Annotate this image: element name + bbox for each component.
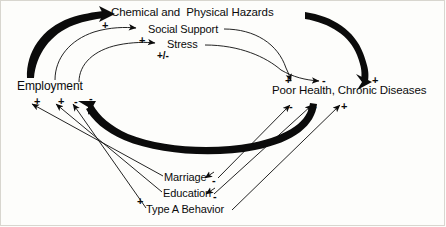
line-typea-to-employment: [73, 104, 146, 208]
sign-poorhealth-to-employment: -: [89, 93, 93, 104]
arc-hazards-to-poorhealth: [305, 12, 372, 90]
node-stress: Stress: [167, 39, 198, 50]
node-chemical-physical-hazards: Chemical and Physical Hazards: [111, 7, 274, 19]
sign-marriage-to-poorhealth: -: [289, 101, 293, 112]
sign-typea-left: +: [137, 196, 143, 207]
sign-hazards-from-employment: +: [102, 20, 108, 31]
sign-marriage-to-employment: +: [34, 96, 40, 107]
sign-stress-to-poorhealth: -: [322, 75, 326, 86]
sign-hazards-to-poorhealth: +: [372, 75, 378, 86]
node-education: Education: [163, 188, 211, 199]
node-social-support: Social Support: [148, 24, 218, 35]
sign-typea-to-employment: -: [74, 96, 78, 107]
node-poor-health-chronic-diseases: Poor Health, Chronic Diseases: [272, 85, 426, 97]
line-education-to-employment: [56, 104, 162, 192]
arc-poorhealth-to-employment: [78, 101, 317, 154]
sign-stress-from-employment: +/-: [157, 51, 169, 61]
curve-stress-to-poorhealth: [205, 45, 319, 81]
sign-marriage-self: -: [212, 175, 216, 186]
line-typea-to-poorhealth: [232, 105, 340, 210]
diagram-canvas-container: Chemical and Physical Hazards Social Sup…: [0, 0, 446, 227]
sign-social-to-poorhealth: +: [285, 75, 291, 86]
node-employment: Employment: [17, 80, 83, 92]
sign-education-self: -: [213, 191, 217, 202]
curve-employment-to-stress: [79, 42, 155, 82]
node-marriage: Marriage: [164, 172, 207, 183]
node-type-a-behavior: Type A Behavior: [146, 204, 224, 215]
sign-typea-to-poorhealth: +: [341, 101, 347, 112]
diagram-svg: [0, 0, 446, 227]
sign-education-to-poorhealth: -: [313, 101, 317, 112]
sign-social-from-employment: +: [139, 35, 145, 46]
arc-employment-to-hazards: [27, 6, 115, 78]
sign-education-to-employment: +: [58, 96, 64, 107]
